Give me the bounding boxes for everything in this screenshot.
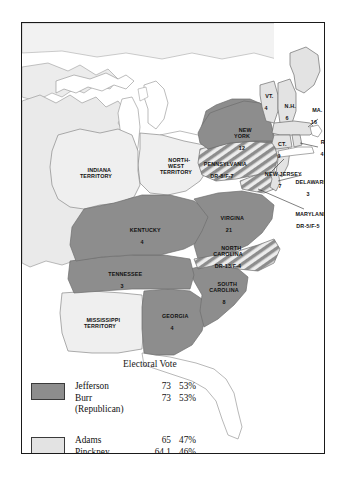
state-tennessee xyxy=(68,255,194,293)
legend-votes-federalist: 65 64 1 xyxy=(153,435,171,454)
state-indiana-territory xyxy=(50,129,140,209)
electoral-map-graphic xyxy=(22,23,324,453)
state-rhode-island xyxy=(292,135,302,147)
state-massachusetts xyxy=(272,121,316,135)
state-connecticut xyxy=(272,135,292,149)
state-mississippi-territory xyxy=(60,291,144,353)
legend-names-federalist: Adams Pinckney Jay (Federalist) xyxy=(75,435,118,454)
legend-percents-republican: 53% 53% xyxy=(179,381,196,404)
legend-swatch-republican xyxy=(31,383,65,400)
legend-title: Electoral Vote xyxy=(123,359,177,369)
legend-swatch-federalist xyxy=(31,437,65,454)
legend-names-republican: Jefferson Burr (Republican) xyxy=(75,381,124,416)
map-frame: NEW YORK 12 VT. 4 N.H. 6 MA. 16 CT. 9 R.… xyxy=(21,22,325,454)
legend-percents-federalist: 47% 46% xyxy=(179,435,196,454)
legend-votes-republican: 73 73 xyxy=(153,381,171,404)
